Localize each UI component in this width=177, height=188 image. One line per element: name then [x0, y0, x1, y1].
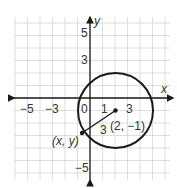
- tick-x-neg5: −5: [20, 102, 34, 116]
- tick-y-neg5: −5: [75, 161, 89, 175]
- tick-origin: 0: [81, 102, 88, 116]
- center-point: [113, 108, 117, 112]
- x-axis-label: x: [160, 82, 168, 96]
- center-label: (2, −1): [110, 119, 145, 133]
- coordinate-plane: x y −5 −3 0 1 3 5 3 −5 3 (2, −1) (x, y): [0, 0, 177, 188]
- tick-x-neg3: −3: [45, 102, 59, 116]
- tick-y-3: 3: [81, 53, 88, 67]
- y-axis-label: y: [93, 14, 101, 28]
- circle-point: [80, 131, 84, 135]
- point-label: (x, y): [52, 134, 79, 148]
- tick-x-3: 3: [126, 102, 133, 116]
- tick-y-5: 5: [81, 26, 88, 40]
- tick-x-1: 1: [101, 102, 108, 116]
- radius-label: 3: [100, 123, 107, 137]
